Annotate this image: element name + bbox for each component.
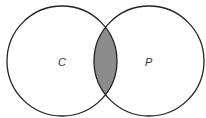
venn-diagram: C P	[0, 0, 206, 118]
set-c-label: C	[58, 56, 66, 68]
set-p-label: P	[145, 56, 153, 68]
